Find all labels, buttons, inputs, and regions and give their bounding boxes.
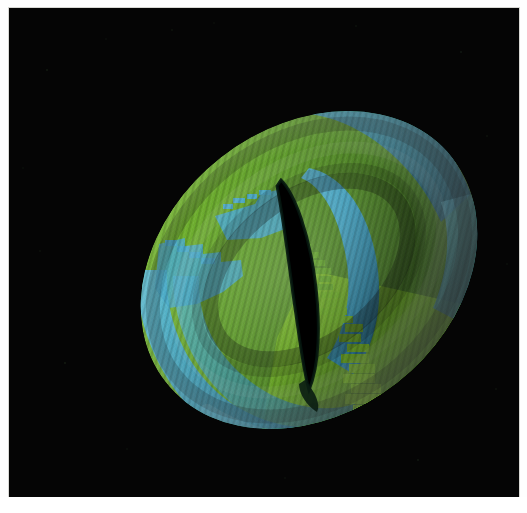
page-bottom-margin bbox=[0, 497, 527, 513]
render-viewport: Torus volume rendering bbox=[9, 8, 519, 497]
page-canvas: Torus volume rendering bbox=[0, 0, 527, 513]
torus-render-svg: Torus volume rendering bbox=[9, 8, 519, 497]
